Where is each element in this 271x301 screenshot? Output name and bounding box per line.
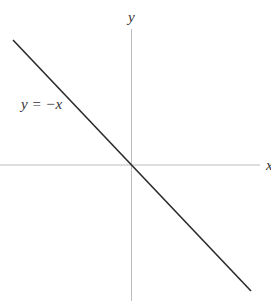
plot-canvas: y x y = −x: [0, 0, 271, 301]
line-label: y = −x: [19, 96, 62, 112]
x-axis-label: x: [265, 157, 271, 173]
y-axis-label: y: [126, 9, 135, 25]
